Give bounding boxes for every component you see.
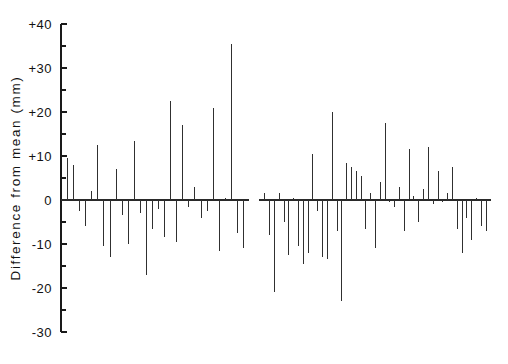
figure-container: +40+30+20+100-10-20-30Difference from me… (0, 0, 508, 364)
difference-from-mean-chart: +40+30+20+100-10-20-30Difference from me… (0, 0, 508, 364)
y-tick-label: -10 (32, 237, 52, 252)
y-tick-label: +10 (28, 149, 52, 164)
y-tick-label: 0 (44, 193, 52, 208)
y-tick-label: +20 (28, 105, 52, 120)
y-axis-title: Difference from mean (mm) (8, 76, 23, 281)
y-tick-label: -20 (32, 281, 52, 296)
y-tick-label: +30 (28, 61, 52, 76)
stem-group-2 (259, 112, 491, 301)
y-tick-label: +40 (28, 17, 52, 32)
stem-group-1 (61, 44, 249, 275)
y-tick-label: -30 (32, 325, 52, 340)
